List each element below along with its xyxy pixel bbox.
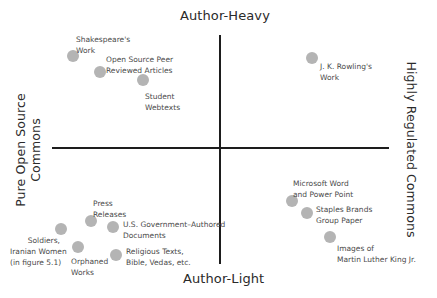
dot-us-government: [107, 221, 119, 233]
label-mlk: Images of Martin Luther King Jr.: [337, 243, 416, 265]
dot-open-source-peer: [94, 66, 106, 78]
label-us-government: U.S. Government–Authored Documents: [123, 219, 225, 241]
label-open-source-peer: Open Source Peer Reviewed Articles: [106, 54, 173, 76]
label-shakespeare: Shakespeare's Work: [76, 34, 130, 56]
label-staples: Staples Brands Group Paper: [316, 204, 372, 226]
axis-label-right-text: Highly Regulated Commons: [404, 60, 419, 240]
dot-student-webtexts: [137, 74, 149, 86]
axis-label-left-line2: Commons: [28, 88, 43, 212]
dot-staples: [301, 207, 313, 219]
dot-religious-texts: [110, 249, 122, 261]
axis-label-left-text: Pure Open Source Commons: [13, 88, 43, 212]
quadrant-diagram: Author-Heavy Author-Light Pure Open Sour…: [0, 0, 437, 298]
axis-label-left-line1: Pure Open Source: [13, 88, 28, 212]
label-student-webtexts: Student Webtexts: [145, 91, 180, 113]
dot-orphaned-works: [72, 241, 84, 253]
dot-mlk: [324, 231, 336, 243]
label-orphaned-works: Orphaned Works: [71, 256, 108, 278]
axis-label-bottom: Author-Light: [183, 271, 264, 286]
label-microsoft: Microsoft Word and Power Point: [293, 178, 353, 200]
label-religious-texts: Religious Texts, Bible, Vedas, etc.: [126, 246, 191, 268]
dot-soldiers: [55, 223, 67, 235]
dot-jk-rowling: [306, 52, 318, 64]
label-press-releases: Press Releases: [93, 198, 126, 220]
label-soldiers: Soldiers, Iranian Women (in figure 5.1): [10, 235, 60, 268]
label-jk-rowling: J. K. Rowling's Work: [320, 61, 372, 83]
axis-label-top: Author-Heavy: [180, 8, 270, 23]
